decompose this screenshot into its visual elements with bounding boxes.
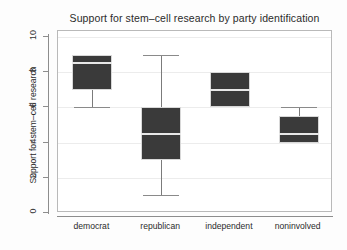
whisker-cap-upper-republican: [143, 55, 179, 56]
x-tick-label-noninvolved: noninvolved: [253, 221, 343, 231]
y-tick-label-6: 6: [28, 98, 38, 112]
y-tick-mark-10: [43, 36, 48, 37]
whisker-cap-lower-democrat: [74, 107, 110, 108]
y-tick-label-2: 2: [28, 169, 38, 183]
y-tick-mark-2: [43, 177, 48, 178]
box-democrat: [72, 55, 112, 90]
y-tick-mark-8: [43, 71, 48, 72]
x-axis-line: [57, 216, 333, 217]
y-tick-label-8: 8: [28, 63, 38, 77]
gridline-10: [58, 37, 331, 38]
page-title: Support for stem–cell research by party …: [57, 12, 332, 24]
median-republican: [141, 133, 181, 135]
whisker-upper-noninvolved: [299, 107, 300, 116]
gridline-2: [58, 178, 331, 179]
plot-area: [57, 30, 332, 212]
median-independent: [210, 89, 250, 91]
y-tick-label-0: 0: [28, 204, 38, 218]
y-tick-label-10: 10: [28, 28, 38, 42]
whisker-lower-democrat: [92, 90, 93, 108]
whisker-lower-republican: [161, 160, 162, 195]
y-tick-mark-4: [43, 142, 48, 143]
box-noninvolved: [279, 116, 319, 142]
boxplot-figure: Support for stem–cell research by party …: [0, 0, 347, 250]
median-democrat: [72, 62, 112, 64]
whisker-cap-lower-republican: [143, 195, 179, 196]
whisker-upper-republican: [161, 55, 162, 108]
y-tick-mark-0: [43, 212, 48, 213]
y-axis-line: [48, 34, 49, 214]
y-tick-mark-6: [43, 106, 48, 107]
gridline-4: [58, 143, 331, 144]
whisker-cap-upper-noninvolved: [281, 107, 317, 108]
y-tick-label-4: 4: [28, 134, 38, 148]
median-noninvolved: [279, 133, 319, 135]
